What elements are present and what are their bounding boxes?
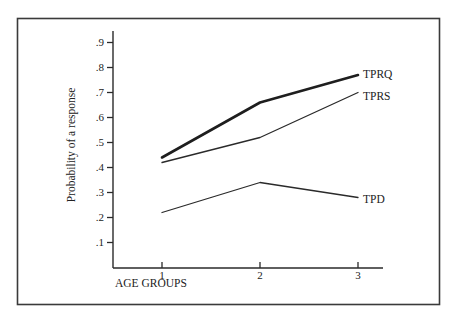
x-axis-ticks: 123 bbox=[159, 262, 361, 281]
chart-frame bbox=[18, 19, 440, 305]
y-axis-ticks: .1.2.3.4.5.6.7.8.9 bbox=[96, 36, 113, 248]
y-tick-label: .4 bbox=[96, 161, 105, 173]
x-tick-label: 2 bbox=[257, 269, 263, 281]
series-label-tprs: TPRS bbox=[363, 90, 391, 102]
y-tick-label: .7 bbox=[96, 86, 105, 98]
y-tick-label: .6 bbox=[96, 111, 105, 123]
y-axis-title: Probability of a response bbox=[65, 88, 78, 203]
y-tick-label: .2 bbox=[96, 211, 104, 223]
y-tick-label: .1 bbox=[96, 236, 104, 248]
y-tick-label: .9 bbox=[96, 36, 105, 48]
y-tick-label: .5 bbox=[96, 136, 105, 148]
series-line-tprq bbox=[162, 75, 358, 158]
y-tick-label: .8 bbox=[96, 61, 105, 73]
x-axis-title: AGE GROUPS bbox=[115, 277, 187, 289]
x-tick-label: 3 bbox=[355, 269, 361, 281]
y-tick-label: .3 bbox=[96, 186, 105, 198]
series-label-tprq: TPRQ bbox=[363, 68, 393, 80]
series-labels: TPRQTPRSTPD bbox=[363, 68, 393, 205]
series-line-tpd bbox=[162, 183, 358, 213]
series-label-tpd: TPD bbox=[363, 193, 385, 205]
line-chart: Probability of a response .1.2.3.4.5.6.7… bbox=[0, 0, 456, 322]
series-lines bbox=[162, 75, 358, 213]
